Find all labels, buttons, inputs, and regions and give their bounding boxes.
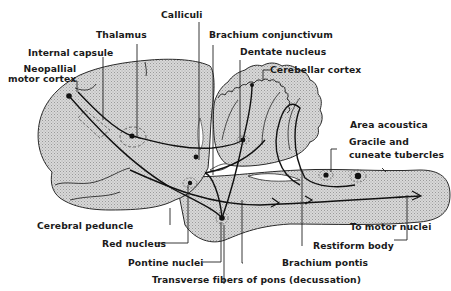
label-area-acoustica: Area acoustica [350,119,428,130]
label-cerebellar-cortex: Cerebellar cortex [270,64,361,75]
label-brachium-pontis: Brachium pontis [282,257,368,268]
label-pontine-nuclei: Pontine nuclei [128,257,204,268]
label-thalamus: Thalamus [96,29,147,40]
label-transverse-fibers: Transverse fibers of pons (decussation) [152,274,361,285]
label-gracile-cuneate: Gracile and cuneate tubercles [349,137,444,160]
label-internal-capsule: Internal capsule [28,47,113,58]
label-neopallial-motor-cortex: Neopallial motor cortex [16,64,76,84]
label-to-motor-nuclei: To motor nuclei [350,221,431,232]
label-calliculi: Calliculi [161,9,203,20]
label-cerebral-peduncle: Cerebral peduncle [37,220,133,231]
label-neopallial-line2: motor cortex [8,74,76,84]
label-gracile-line2: cuneate tubercles [349,150,444,160]
label-dentate-nucleus: Dentate nucleus [240,46,326,57]
label-red-nucleus: Red nucleus [102,238,166,249]
label-gracile-line1: Gracile and [349,137,444,147]
label-restiform-body: Restiform body [313,240,394,251]
label-brachium-conjunctivum: Brachium conjunctivum [209,29,333,40]
